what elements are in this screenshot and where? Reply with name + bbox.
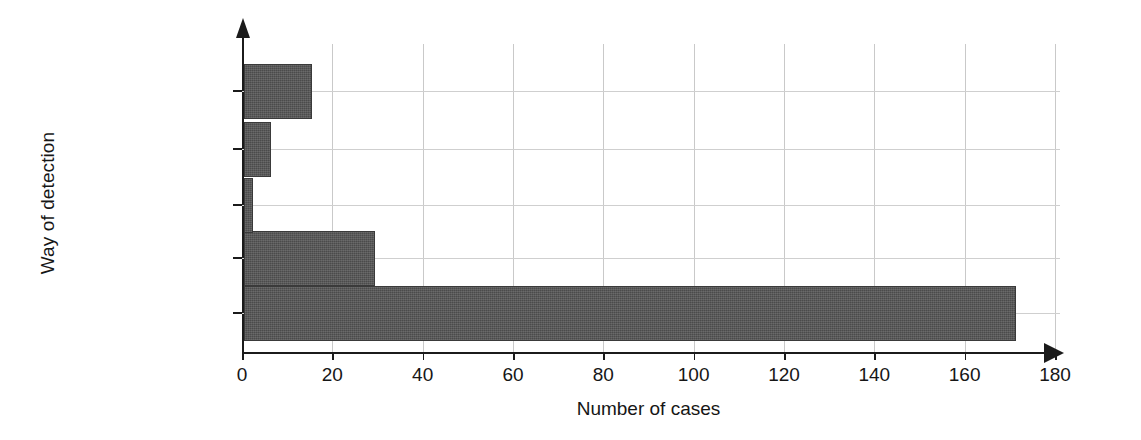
x-tick	[513, 352, 515, 360]
gridline-horizontal	[242, 149, 1060, 150]
y-tick	[233, 148, 242, 150]
x-tick-label: 40	[393, 364, 453, 386]
x-tick	[423, 352, 425, 360]
x-tick-label: 60	[483, 364, 543, 386]
x-axis-title: Number of cases	[242, 398, 1055, 420]
x-tick	[603, 352, 605, 360]
x-tick	[1055, 352, 1057, 360]
x-tick-label: 140	[844, 364, 904, 386]
bar	[244, 178, 253, 233]
x-axis-arrow-icon	[1044, 343, 1064, 363]
x-tick-label: 80	[573, 364, 633, 386]
x-tick-label: 20	[302, 364, 362, 386]
y-tick	[233, 257, 242, 259]
x-tick	[784, 352, 786, 360]
y-tick	[233, 312, 242, 314]
x-tick	[332, 352, 334, 360]
y-axis-title: Way of detection	[37, 93, 59, 313]
x-axis-line	[242, 352, 1048, 354]
x-tick-label: 100	[664, 364, 724, 386]
bar	[244, 286, 1016, 341]
bar	[244, 64, 312, 119]
x-tick-label: 180	[1025, 364, 1085, 386]
x-tick	[242, 352, 244, 360]
gridline-horizontal	[242, 205, 1060, 206]
x-tick-label: 160	[935, 364, 995, 386]
y-axis-arrow-icon	[236, 18, 250, 38]
y-tick	[233, 90, 242, 92]
bar	[244, 231, 375, 286]
bar	[244, 122, 271, 177]
bar-chart: Way of detection 02040608010012014016018…	[0, 0, 1141, 440]
y-tick	[233, 204, 242, 206]
x-tick	[965, 352, 967, 360]
x-tick	[874, 352, 876, 360]
plot-area: 020406080100120140160180 ExternalInterna…	[242, 18, 1060, 352]
x-tick-label: 120	[754, 364, 814, 386]
x-tick	[694, 352, 696, 360]
gridline-horizontal	[242, 91, 1060, 92]
x-tick-label: 0	[212, 364, 272, 386]
